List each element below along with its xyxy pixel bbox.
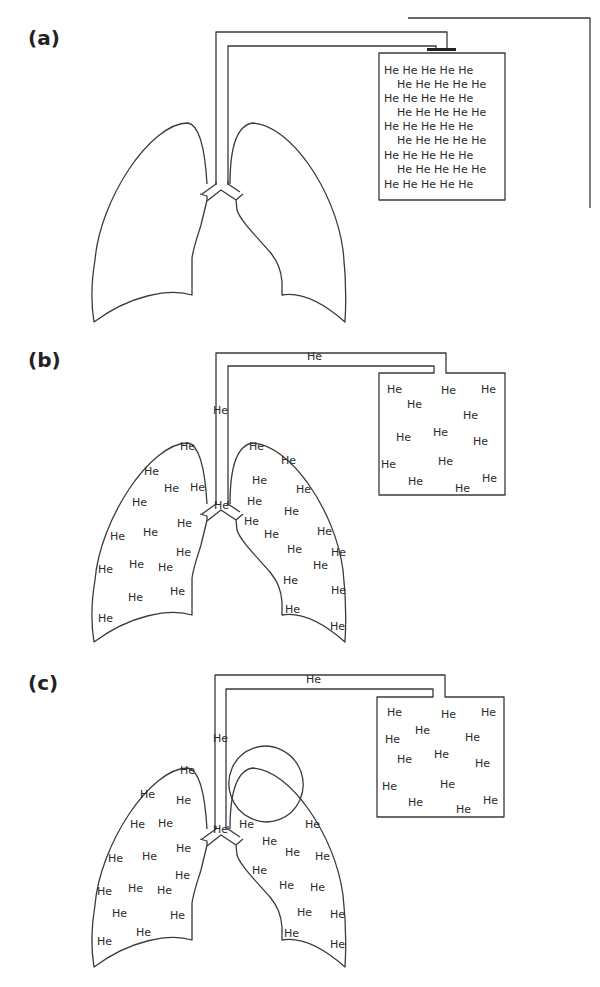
svg-text:He: He	[158, 561, 173, 574]
svg-text:He: He	[140, 788, 155, 801]
panel-c: (c) He He He He He He He He He He He He …	[28, 671, 504, 967]
svg-text:He: He	[315, 850, 330, 863]
svg-text:He: He	[284, 505, 299, 518]
svg-text:He: He	[330, 938, 345, 951]
bulla-region	[218, 736, 314, 833]
helium-atoms-c: He He He He He He He He He He He He He H…	[97, 673, 498, 951]
svg-text:He: He	[482, 472, 497, 485]
svg-text:He: He	[387, 706, 402, 719]
lungs-c	[92, 768, 346, 967]
svg-text:He: He	[330, 908, 345, 921]
svg-text:He: He	[108, 852, 123, 865]
svg-text:He: He	[239, 818, 254, 831]
panel-b: (b) He He He He He He He He He He He He …	[28, 348, 505, 642]
svg-text:He: He	[158, 817, 173, 830]
svg-text:He: He	[214, 499, 229, 512]
svg-text:He: He	[98, 563, 113, 576]
svg-text:He: He	[385, 733, 400, 746]
svg-text:He: He	[177, 517, 192, 530]
svg-text:He: He	[262, 835, 277, 848]
svg-text:He: He	[97, 885, 112, 898]
svg-text:He: He	[213, 732, 228, 745]
svg-text:He: He	[456, 803, 471, 816]
svg-text:He: He	[264, 528, 279, 541]
svg-text:He: He	[306, 673, 321, 686]
svg-text:He: He	[397, 753, 412, 766]
svg-text:He: He	[307, 350, 322, 363]
svg-text:He: He	[281, 454, 296, 467]
svg-text:He: He	[244, 515, 259, 528]
svg-text:He: He	[213, 823, 228, 836]
panel-label-c: (c)	[28, 671, 58, 695]
svg-text:He: He	[481, 706, 496, 719]
container-helium-grid: He He He He He He He He He He He He He H…	[384, 64, 486, 191]
svg-text:He: He	[252, 864, 267, 877]
svg-text:He He He He He: He He He He He	[384, 92, 473, 105]
svg-text:He: He	[408, 475, 423, 488]
svg-text:He: He	[473, 435, 488, 448]
svg-text:He: He	[143, 526, 158, 539]
svg-text:He: He	[132, 496, 147, 509]
svg-text:He: He	[129, 558, 144, 571]
svg-text:He: He	[252, 474, 267, 487]
svg-text:He: He	[297, 906, 312, 919]
svg-text:He He He He He: He He He He He	[384, 149, 473, 162]
svg-text:He: He	[142, 850, 157, 863]
svg-text:He: He	[136, 926, 151, 939]
svg-text:He: He	[330, 620, 345, 633]
svg-text:He He He He He: He He He He He	[397, 134, 486, 147]
svg-text:He He He He He: He He He He He	[384, 64, 473, 77]
svg-text:He: He	[317, 525, 332, 538]
svg-text:He: He	[415, 724, 430, 737]
svg-text:He: He	[190, 481, 205, 494]
svg-text:He: He	[381, 458, 396, 471]
svg-text:He: He	[170, 585, 185, 598]
svg-text:He: He	[382, 780, 397, 793]
svg-text:He: He	[285, 846, 300, 859]
svg-text:He: He	[313, 559, 328, 572]
svg-text:He: He	[144, 465, 159, 478]
svg-text:He: He	[98, 612, 113, 625]
svg-text:He: He	[213, 404, 228, 417]
svg-text:He: He	[465, 731, 480, 744]
svg-text:He: He	[176, 794, 191, 807]
svg-text:He: He	[128, 591, 143, 604]
svg-text:He: He	[176, 546, 191, 559]
svg-text:He: He	[331, 584, 346, 597]
svg-text:He: He	[279, 879, 294, 892]
svg-text:He: He	[455, 482, 470, 495]
svg-text:He: He	[475, 757, 490, 770]
panel-a: (a) He He He He He He He He He He He He …	[28, 18, 590, 322]
svg-text:He: He	[310, 881, 325, 894]
svg-text:He: He	[305, 818, 320, 831]
svg-text:He: He	[296, 483, 311, 496]
svg-text:He: He	[164, 482, 179, 495]
svg-text:He: He	[433, 426, 448, 439]
svg-text:He: He	[434, 748, 449, 761]
helium-atoms-b: He He He He He He He He He He He He He H…	[98, 350, 497, 633]
svg-text:He: He	[481, 383, 496, 396]
svg-text:He: He	[408, 796, 423, 809]
svg-text:He: He	[283, 574, 298, 587]
svg-text:He: He	[112, 907, 127, 920]
svg-text:He: He	[387, 383, 402, 396]
svg-text:He: He	[176, 842, 191, 855]
svg-text:He: He	[247, 495, 262, 508]
svg-text:He: He	[407, 398, 422, 411]
svg-text:He: He	[97, 935, 112, 948]
svg-text:He He He He He: He He He He He	[397, 78, 486, 91]
svg-text:He: He	[110, 530, 125, 543]
svg-text:He: He	[180, 440, 195, 453]
svg-text:He: He	[463, 409, 478, 422]
svg-text:He: He	[287, 543, 302, 556]
svg-text:He: He	[284, 927, 299, 940]
svg-text:He: He	[441, 384, 456, 397]
svg-text:He: He	[440, 778, 455, 791]
lungs-a	[92, 123, 346, 322]
lungs-b	[92, 443, 346, 642]
svg-text:He: He	[180, 764, 195, 777]
svg-text:He: He	[438, 455, 453, 468]
svg-text:He He He He He: He He He He He	[397, 163, 486, 176]
svg-text:He He He He He: He He He He He	[384, 120, 473, 133]
panel-label-a: (a)	[28, 26, 60, 50]
